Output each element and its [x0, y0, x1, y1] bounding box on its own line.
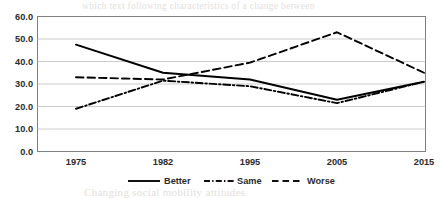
y-tick-label: 50.0: [15, 34, 33, 44]
x-tick-label: 1975: [66, 157, 86, 167]
x-tick-label: 2015: [414, 157, 434, 167]
y-tick-label: 60.0: [15, 12, 33, 22]
x-tick-label: 1995: [240, 157, 260, 167]
y-tick-label: 10.0: [15, 124, 33, 134]
y-tick-label: 30.0: [15, 79, 33, 89]
x-tick-label: 1982: [153, 157, 173, 167]
legend-label-worse[interactable]: Worse: [307, 176, 335, 186]
y-tick-label: 20.0: [15, 102, 33, 112]
x-tick-label: 2005: [327, 157, 347, 167]
legend: Better Same Worse: [128, 176, 335, 186]
y-tick-label: 0.0: [20, 147, 33, 157]
chart-canvas: 60.0 50.0 40.0 30.0 20.0 10.0 0.0 1975 1…: [0, 0, 441, 198]
legend-label-better[interactable]: Better: [164, 176, 191, 186]
legend-label-same[interactable]: Same: [237, 176, 262, 186]
y-axis: 60.0 50.0 40.0 30.0 20.0 10.0 0.0: [15, 12, 33, 157]
y-tick-label: 40.0: [15, 57, 33, 67]
x-axis: 1975 1982 1995 2005 2015: [66, 157, 434, 167]
line-chart: which text following characteristics of …: [0, 0, 441, 198]
